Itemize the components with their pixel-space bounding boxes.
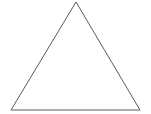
triangle-figure <box>0 0 151 114</box>
drawing-canvas <box>0 0 151 114</box>
canvas-background <box>0 0 151 114</box>
